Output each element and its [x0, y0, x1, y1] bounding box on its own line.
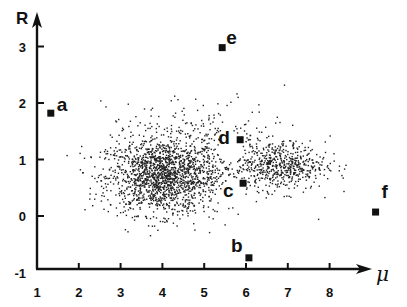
- square-marker-icon: [47, 110, 54, 117]
- square-marker-icon: [240, 180, 247, 187]
- square-marker-icon: [372, 209, 379, 216]
- y-tick-label: 0: [19, 209, 26, 224]
- y-tick-label: 1: [19, 153, 26, 168]
- y-axis: [32, 12, 42, 269]
- y-ticks: -10123: [14, 40, 44, 281]
- data-cloud: [66, 85, 346, 237]
- x-tick-label: 8: [326, 285, 333, 300]
- labeled-point-b: b: [231, 235, 253, 262]
- x-axis-label: μ: [376, 262, 389, 286]
- labeled-points: abcdef: [47, 27, 388, 262]
- labeled-point-f: f: [372, 181, 389, 216]
- point-label: e: [226, 27, 237, 48]
- labeled-point-d: d: [218, 127, 244, 148]
- point-label: d: [218, 127, 230, 148]
- labeled-point-e: e: [219, 27, 237, 52]
- point-label: f: [382, 181, 389, 202]
- x-tick-label: 2: [75, 285, 82, 300]
- point-label: c: [223, 180, 234, 201]
- x-tick-label: 5: [201, 285, 208, 300]
- y-tick-label: 2: [19, 96, 26, 111]
- y-axis-label: R: [16, 9, 28, 28]
- x-tick-label: 1: [33, 285, 40, 300]
- labeled-point-a: a: [47, 94, 68, 117]
- point-label: b: [231, 235, 243, 256]
- x-tick-label: 4: [159, 285, 167, 300]
- y-tick-label: -1: [14, 266, 26, 281]
- x-tick-label: 7: [284, 285, 291, 300]
- x-tick-label: 3: [117, 285, 124, 300]
- scatter-chart: 12345678 -10123 R μ abcdef: [0, 0, 407, 307]
- labeled-point-c: c: [223, 180, 247, 202]
- square-marker-icon: [237, 136, 244, 143]
- square-marker-icon: [245, 254, 252, 261]
- x-tick-label: 6: [242, 285, 249, 300]
- y-tick-label: 3: [19, 40, 26, 55]
- point-label: a: [57, 94, 68, 115]
- square-marker-icon: [219, 44, 226, 51]
